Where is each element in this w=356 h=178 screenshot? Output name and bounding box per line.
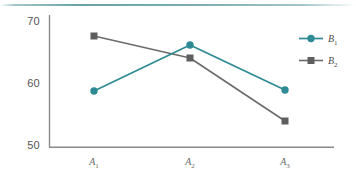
- legend-label-sub-B2: 2: [334, 61, 338, 69]
- x-tick-label-a1: A1: [74, 156, 114, 170]
- legend-swatch-marker-B1: [307, 35, 314, 42]
- series-B2-point-A3: [282, 118, 289, 125]
- series-B1-point-A1: [90, 87, 97, 94]
- series-B2-point-A2: [187, 55, 194, 62]
- legend-item-label-B2: B2: [328, 55, 356, 69]
- x-tick-label-a3: A3: [265, 156, 305, 170]
- series-B2-line: [94, 36, 285, 121]
- series-B1: [90, 41, 288, 94]
- x-tick-sub-a3: 3: [286, 162, 290, 170]
- y-tick-label-50: 50: [14, 139, 40, 151]
- x-tick-label-a2: A2: [170, 156, 210, 170]
- legend-swatch-marker-B2: [308, 57, 315, 64]
- x-tick-sub-a2: 2: [191, 162, 195, 170]
- series-B1-point-A3: [281, 86, 288, 93]
- series-B1-point-A2: [186, 41, 193, 48]
- x-tick-sub-a1: 1: [95, 162, 99, 170]
- legend-label-sub-B1: 1: [334, 39, 338, 47]
- y-tick-label-60: 60: [14, 77, 40, 89]
- legend: [299, 35, 323, 64]
- legend-item-label-B1: B1: [328, 33, 356, 47]
- y-tick-label-70: 70: [14, 15, 40, 27]
- series-B2-point-A1: [91, 33, 98, 40]
- series-B1-line: [94, 45, 285, 91]
- line-chart-plot: [0, 0, 356, 178]
- chart-figure: 70 60 50 A1 A2 A3 B1 B2: [0, 0, 356, 178]
